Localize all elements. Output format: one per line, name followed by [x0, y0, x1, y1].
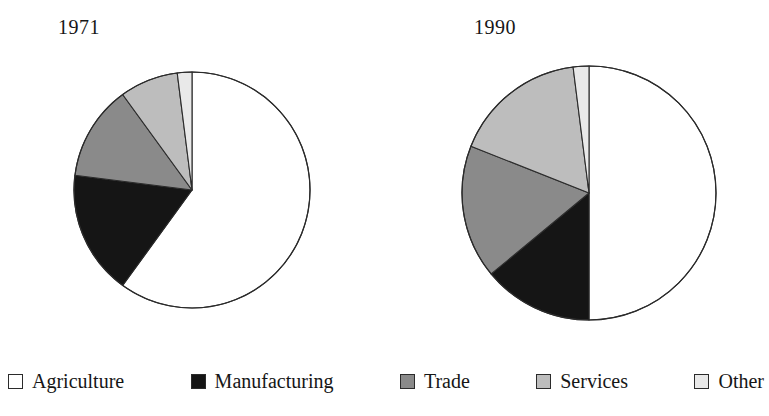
chart-title-1971: 1971 [58, 16, 100, 39]
pie-slice-agriculture[interactable] [589, 66, 716, 320]
legend-item[interactable]: Trade [400, 371, 470, 391]
legend-swatch-icon [400, 374, 415, 389]
pie-chart-1990 [458, 62, 720, 324]
legend-swatch-icon [8, 374, 23, 389]
legend: AgricultureManufacturingTradeServicesOth… [8, 366, 764, 396]
legend-label: Services [560, 371, 628, 391]
legend-swatch-icon [191, 374, 206, 389]
legend-label: Manufacturing [215, 371, 334, 391]
legend-label: Other [718, 371, 764, 391]
legend-label: Trade [424, 371, 470, 391]
chart-title-1990: 1990 [474, 16, 516, 39]
pie-chart-figure: 1971 1990 AgricultureManufacturingTradeS… [0, 0, 769, 416]
legend-swatch-icon [694, 374, 709, 389]
pie-svg-1990 [458, 62, 720, 324]
legend-item[interactable]: Services [536, 371, 628, 391]
legend-item[interactable]: Other [694, 371, 764, 391]
legend-item[interactable]: Manufacturing [191, 371, 334, 391]
legend-swatch-icon [536, 374, 551, 389]
pie-chart-1971 [70, 68, 315, 313]
legend-label: Agriculture [32, 371, 124, 391]
legend-item[interactable]: Agriculture [8, 371, 124, 391]
pie-svg-1971 [70, 68, 315, 313]
